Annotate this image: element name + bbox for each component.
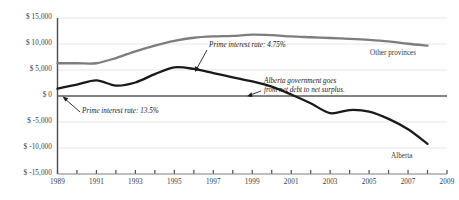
x-axis-tick-label: 1997 bbox=[197, 178, 229, 186]
x-axis-tick-label: 2009 bbox=[431, 178, 459, 186]
x-axis-tick-label: 2007 bbox=[392, 178, 424, 186]
annotation-prime-rate-start: Prime interest rate: 13.5% bbox=[82, 107, 159, 116]
y-axis-tick-label: $ 5,000 bbox=[0, 65, 52, 73]
arrow-prime-rate-mid-head bbox=[195, 66, 199, 72]
y-axis-tick-label: $ 0 bbox=[0, 91, 52, 99]
x-axis-tick-label: 2005 bbox=[353, 178, 385, 186]
y-axis-tick-label: $ 10,000 bbox=[0, 39, 52, 47]
y-axis-tick-label: $ -10,000 bbox=[0, 143, 52, 151]
series-line-alberta bbox=[58, 67, 428, 144]
annotation-net-debt-line2: from net debt to net surplus. bbox=[264, 86, 345, 95]
annotation-prime-rate-mid: Prime interest rate: 4.75% bbox=[209, 41, 286, 50]
series-label-alberta: Alberta bbox=[391, 152, 413, 160]
x-axis-tick-label: 1991 bbox=[80, 178, 112, 186]
annotation-net-debt-to-surplus: Alberta government goes from net debt to… bbox=[264, 77, 345, 95]
chart-plot-area bbox=[0, 0, 459, 200]
y-axis-tick-label: $ -5,000 bbox=[0, 117, 52, 125]
x-axis-tick-label: 1999 bbox=[236, 178, 268, 186]
x-axis-tick-label: 1993 bbox=[119, 178, 151, 186]
x-axis-tick-label: 2003 bbox=[314, 178, 346, 186]
annotation-net-debt-line1: Alberta government goes bbox=[264, 77, 345, 86]
chart-container: $ 15,000$ 10,000$ 5,000$ 0$ -5,000$ -10,… bbox=[0, 0, 459, 200]
x-axis-tick-label: 1995 bbox=[158, 178, 190, 186]
series-label-other-provinces: Other provinces bbox=[370, 49, 416, 57]
x-axis-tick-label: 2001 bbox=[275, 178, 307, 186]
arrow-prime-rate-mid bbox=[196, 50, 207, 70]
y-axis-tick-label: $ -15,000 bbox=[0, 169, 52, 177]
y-axis-tick-label: $ 15,000 bbox=[0, 13, 52, 21]
arrow-net-debt-to-surplus-head bbox=[247, 92, 252, 97]
x-axis-ticks bbox=[58, 170, 448, 174]
x-axis-tick-label: 1989 bbox=[42, 178, 74, 186]
